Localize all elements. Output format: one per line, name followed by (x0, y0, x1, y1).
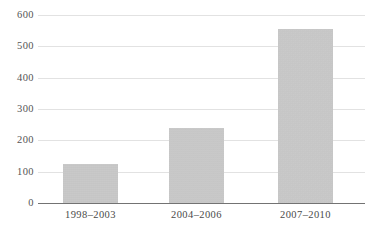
bar-1998-2003 (63, 164, 118, 203)
y-axis-tick-labels: 0 100 200 300 400 500 600 (0, 0, 34, 239)
plot-area (38, 15, 365, 203)
y-axis-tick-label: 400 (17, 72, 34, 83)
y-axis-tick-label: 0 (28, 198, 34, 209)
gridline-600 (38, 15, 365, 16)
y-axis-tick-label: 200 (17, 135, 34, 146)
x-axis-tick-label-3: 2007–2010 (280, 210, 331, 221)
x-axis-tick-label-2: 2004–2006 (171, 210, 222, 221)
x-axis-line (38, 203, 365, 204)
bar-2004-2006 (169, 128, 224, 203)
x-axis-tick-label-1: 1998–2003 (65, 210, 116, 221)
y-axis-tick-label: 100 (17, 166, 34, 177)
bar-2007-2010 (278, 29, 333, 203)
y-axis-tick-label: 500 (17, 41, 34, 52)
bar-chart: 0 100 200 300 400 500 600 1998–2003 2004… (0, 0, 373, 239)
y-axis-tick-label: 600 (17, 10, 34, 21)
x-axis-tick-labels: 1998–2003 2004–2006 2007–2010 (38, 210, 365, 234)
y-axis-tick-label: 300 (17, 104, 34, 115)
